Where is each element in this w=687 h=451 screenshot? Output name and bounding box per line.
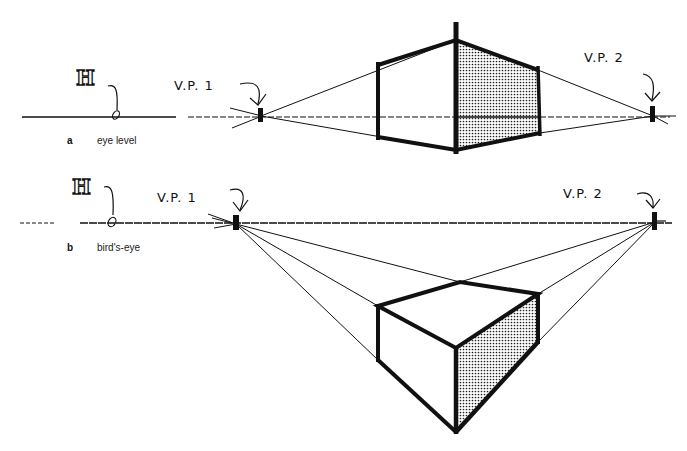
construction-line xyxy=(236,224,378,360)
box-right-edge xyxy=(538,66,540,136)
vp1-arrow xyxy=(240,83,259,104)
construction-line xyxy=(540,116,653,133)
perspective-diagram xyxy=(0,0,687,451)
panel-b-birds-eye xyxy=(20,187,672,434)
vp1-label-b: V.P. 1 xyxy=(157,190,197,205)
construction-line xyxy=(538,222,655,294)
vp2-label-a: V.P. 2 xyxy=(584,50,624,65)
vp1-marker xyxy=(258,108,263,122)
panel-caption-a: eye level xyxy=(97,135,136,146)
vp2-marker xyxy=(650,106,655,122)
construction-line xyxy=(538,70,653,116)
vp1-marker xyxy=(233,215,239,230)
horizon-label-b: H xyxy=(72,175,91,199)
vp2-label-b: V.P. 2 xyxy=(563,186,603,201)
panel-letter-b: b xyxy=(67,242,73,253)
panel-letter-a: a xyxy=(67,135,73,146)
construction-line xyxy=(236,224,378,306)
shaded-face xyxy=(456,294,538,432)
panel-caption-b: bird's-eye xyxy=(97,242,140,253)
horizon-label-a: H xyxy=(76,66,95,90)
construction-line xyxy=(236,224,460,282)
vp1-label-a: V.P. 1 xyxy=(174,78,214,93)
box-bottom-left xyxy=(378,360,456,432)
vp2-marker xyxy=(652,212,657,230)
